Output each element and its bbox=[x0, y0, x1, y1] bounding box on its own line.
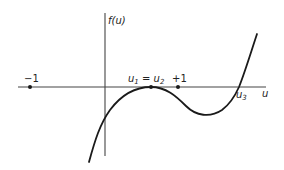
x-axis-label: u bbox=[262, 89, 268, 99]
double-root-label: u1 = u2 bbox=[128, 74, 164, 86]
y-axis-label: f(u) bbox=[108, 16, 126, 26]
point-plus-one bbox=[176, 85, 180, 89]
root-u3-label: u3 bbox=[236, 90, 247, 102]
cubic-function-diagram: f(u) −1 u1 = u2 +1 u3 u bbox=[0, 0, 284, 170]
tick-label-plus-one: +1 bbox=[172, 74, 187, 84]
cubic-curve bbox=[89, 34, 257, 162]
point-minus-one bbox=[28, 85, 32, 89]
tick-label-minus-one: −1 bbox=[24, 74, 39, 84]
